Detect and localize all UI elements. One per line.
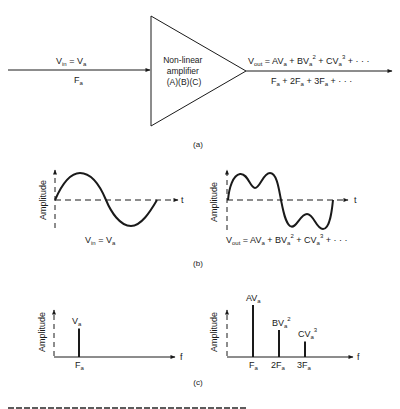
right-amplitude-label-1: AVa (246, 293, 261, 304)
panel-b: t Amplitude Vin = Va t Amplitude Vout = … (38, 170, 357, 268)
caption-c: (c) (193, 378, 203, 387)
output-voltage-formula: Vout = AVa + BVa2 + CVa3 + · · · (248, 54, 369, 67)
right-amplitude-label-3: CVa3 (298, 327, 318, 340)
right-spectrum-amplitude-label: Amplitude (209, 312, 219, 352)
right-frequency-label-3: 3Fa (297, 360, 312, 371)
input-frequency-label: Fa (74, 75, 84, 86)
caption-b: (b) (193, 259, 203, 268)
right-amplitude-label-2: BVa2 (272, 316, 291, 329)
right-t-label: t (354, 195, 357, 205)
input-waveform-caption: Vin = Va (85, 235, 116, 246)
left-amplitude-label-1: Va (72, 316, 82, 327)
left-amplitude-label: Amplitude (38, 180, 48, 220)
left-spectrum-lines: VaFa (72, 316, 85, 371)
output-waveform-caption: Vout = AVa + BVa2 + CVa3 + · · · (226, 233, 347, 246)
right-spectrum-lines: AVaFaBVa22FaCVa33Fa (246, 293, 318, 371)
nonlinear-amplifier-figure: Vin = Va Fa Non-linear amplifier (A)(B)(… (0, 0, 400, 409)
panel-c: f Amplitude VaFa f Amplitude AVaFaBVa22F… (37, 293, 360, 387)
output-frequency-formula: Fa + 2Fa + 3Fa + · · · (271, 76, 352, 87)
output-distorted-wave (228, 173, 333, 229)
left-t-label: t (181, 195, 184, 205)
right-frequency-label-2: 2Fa (271, 360, 286, 371)
input-voltage-label: Vin = Va (56, 56, 87, 67)
right-frequency-label-1: Fa (249, 360, 259, 371)
right-f-label: f (357, 352, 360, 362)
panel-a: Vin = Va Fa Non-linear amplifier (A)(B)(… (8, 16, 392, 149)
amplifier-label: Non-linear amplifier (A)(B)(C) (163, 55, 205, 87)
caption-a: (a) (193, 140, 203, 149)
left-spectrum-amplitude-label: Amplitude (37, 312, 47, 352)
right-amplitude-label: Amplitude (209, 182, 219, 222)
left-frequency-label-1: Fa (75, 360, 85, 371)
left-f-label: f (180, 352, 183, 362)
